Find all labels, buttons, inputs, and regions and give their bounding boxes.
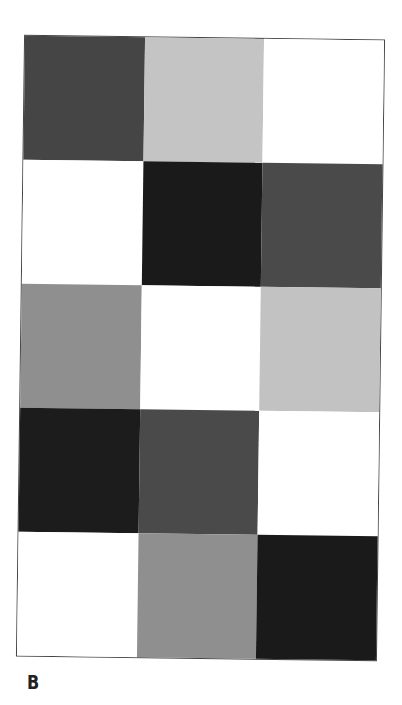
grid-cell-r2-c2-black [141, 161, 262, 287]
grid-cell-r5-c1-white [17, 532, 138, 658]
grid-cell-r3-c3-light-gray [260, 287, 381, 413]
grid-cell-r2-c1-white [22, 160, 143, 286]
grid-cell-r4-c3-white [258, 411, 379, 537]
grid-cell-r2-c3-dark-gray [261, 163, 382, 289]
grid-cell-r3-c2-white [140, 285, 261, 411]
grid-cell-r1-c2-light-gray [143, 37, 264, 163]
grid-cell-r5-c2-mid-gray [137, 533, 258, 659]
grid-cell-r3-c1-mid-gray [20, 284, 141, 410]
grid-cell-r1-c1-dark-gray [23, 36, 144, 162]
figure-label: B [27, 670, 39, 694]
grid-cell-r4-c2-dark-gray [138, 409, 259, 535]
grid-cell-r1-c3-white [263, 39, 384, 165]
grid-cell-r4-c1-black [19, 408, 140, 534]
grid-cell-r5-c3-black [256, 535, 377, 661]
shade-grid [16, 35, 385, 662]
